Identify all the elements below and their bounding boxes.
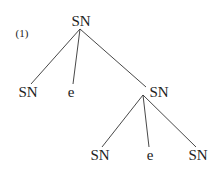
node-l2-right: SN bbox=[188, 147, 207, 164]
example-number: (1) bbox=[16, 27, 29, 39]
syntax-tree-diagram: (1) SN SN e SN SN e SN bbox=[0, 0, 224, 172]
node-l2-empty: e bbox=[147, 147, 154, 164]
node-l2-left: SN bbox=[90, 147, 109, 164]
node-root: SN bbox=[71, 13, 90, 30]
node-l1-left: SN bbox=[18, 84, 37, 101]
node-l1-right: SN bbox=[149, 84, 168, 101]
node-l1-empty: e bbox=[68, 84, 75, 101]
